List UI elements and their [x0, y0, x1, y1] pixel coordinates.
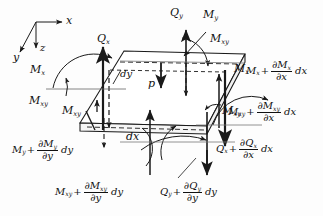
- expr-Mxy-dy-num-sub: xy: [100, 185, 107, 192]
- expr-Qx-dx-differential: dx: [261, 143, 273, 154]
- expr-Mx-plus-denominator: ∂x: [271, 71, 292, 82]
- label-Mxy-top-subscript: xy: [221, 38, 229, 46]
- expr-Mxy-dy-num-text: ∂M: [85, 180, 100, 191]
- label-dy: dy: [120, 69, 132, 79]
- label-Mxy-bottomleft-symbol: M: [62, 104, 73, 117]
- expr-Qx-plus-dx: Qx+∂Qx∂xdx: [216, 138, 273, 160]
- expr-Qy-dy-base: Q: [160, 186, 168, 197]
- expr-Mx-plus: Mx+∂Mx∂xdx: [246, 60, 307, 82]
- expr-Qy-dy-num-text: ∂Q: [184, 180, 197, 191]
- label-My-subscript: y: [214, 14, 218, 22]
- expr-My-dy-numerator: ∂My: [37, 139, 58, 150]
- expr-Mx-plus-num-sub: x: [288, 64, 292, 71]
- expr-Qy-plus-dy: Qy+∂Qy∂ydy: [160, 181, 217, 203]
- expr-Qx-dx-fraction: ∂Qx∂x: [239, 138, 258, 160]
- expr-My-plus-dy: My+∂My∂ydy: [12, 139, 73, 161]
- expr-Qx-dx-base: Q: [216, 143, 224, 154]
- expr-My-dy-operator: +: [26, 144, 36, 155]
- expr-Mxy-dx-numerator: ∂Mxy: [257, 101, 281, 112]
- plate-element-diagram: x y z dy dx p Qx Qy My Mxy Mx Mxy Mxy Mx…: [0, 0, 323, 216]
- expr-My-dy-num-sub: y: [54, 143, 58, 150]
- label-Qy: Qy: [170, 7, 183, 20]
- expr-Qy-dy-operator: +: [172, 186, 182, 197]
- y-axis-arrow: [20, 22, 36, 52]
- expr-Mxy-plus-dx: Mxy+∂Mxy∂xdx: [228, 101, 296, 123]
- expr-Mx-plus-differential: dx: [295, 65, 307, 76]
- expr-Qy-dy-denominator: ∂y: [183, 192, 202, 203]
- expr-Mxy-dy-fraction: ∂Mxy∂y: [84, 181, 108, 203]
- expr-Mxy-plus-dy: Mxy+∂Mxy∂ydy: [55, 181, 123, 203]
- expr-Mx-plus-operator: +: [260, 65, 270, 76]
- expr-Mxy-dx-operator: +: [245, 106, 255, 117]
- expr-Mxy-dy-differential: dy: [111, 186, 123, 197]
- expr-Qy-dy-numerator: ∂Qy: [183, 181, 202, 192]
- expr-Mx-plus-numerator: ∂Mx: [271, 60, 292, 71]
- label-Qx-subscript: x: [106, 38, 110, 46]
- expr-My-dy-denominator: ∂y: [37, 150, 58, 161]
- expr-Mxy-dy-base: M: [55, 186, 65, 197]
- label-Mxy-left: Mxy: [29, 95, 48, 108]
- label-pressure-p: p: [148, 78, 155, 89]
- expr-My-dy-num-text: ∂M: [38, 138, 53, 149]
- expr-Qx-dx-num-text: ∂Q: [240, 137, 253, 148]
- label-My-symbol: M: [203, 8, 214, 21]
- expr-Mx-plus-base: M: [246, 65, 256, 76]
- label-Qx: Qx: [97, 33, 110, 46]
- label-Qy-symbol: Q: [170, 6, 179, 19]
- expr-Mxy-dy-operator: +: [72, 186, 82, 197]
- label-My: My: [203, 9, 218, 22]
- axis-label-y: y: [13, 52, 19, 63]
- expr-Qx-dx-operator: +: [228, 143, 238, 154]
- expr-My-dy-base: M: [12, 144, 22, 155]
- label-Mx-left-symbol: M: [30, 63, 41, 76]
- expr-My-dy-fraction: ∂My∂y: [37, 139, 58, 161]
- expr-Qx-dx-numerator: ∂Qx: [239, 138, 258, 149]
- expr-Mxy-dx-denominator: ∂x: [257, 112, 281, 123]
- Mxy-left-arc: [66, 78, 67, 96]
- expr-Mxy-dx-base: M: [228, 106, 238, 117]
- Mxy-plus-dy-leader: [178, 158, 196, 178]
- expr-Qy-dy-fraction: ∂Qy∂y: [183, 181, 202, 203]
- expr-Mx-plus-fraction: ∂Mx∂x: [271, 60, 292, 82]
- bottom-left-arc: [142, 128, 152, 166]
- label-dx: dx: [126, 131, 139, 142]
- expr-Mxy-dx-fraction: ∂Mxy∂x: [257, 101, 281, 123]
- expr-Mxy-dx-num-sub: xy: [273, 105, 280, 112]
- label-Qy-subscript: y: [179, 12, 183, 20]
- label-Qx-symbol: Q: [97, 32, 106, 45]
- expr-Mxy-dy-numerator: ∂Mxy: [84, 181, 108, 192]
- expr-Mx-plus-num-text: ∂M: [272, 59, 287, 70]
- expr-Mxy-dy-denominator: ∂y: [84, 192, 108, 203]
- label-Mx-left-subscript: x: [41, 69, 45, 77]
- expr-Qy-dy-num-sub: y: [197, 185, 201, 192]
- label-Mxy-bottomleft: Mxy: [62, 105, 81, 118]
- expr-Qx-dx-num-sub: x: [253, 142, 257, 149]
- label-Mx-right-symbol: M: [234, 62, 245, 75]
- expr-Qy-dy-differential: dy: [205, 186, 217, 197]
- expr-Qx-dx-denominator: ∂x: [239, 149, 258, 160]
- axis-label-x: x: [66, 15, 72, 26]
- label-Mxy-left-symbol: M: [29, 94, 40, 107]
- label-Mx-left: Mx: [30, 64, 45, 77]
- label-Mxy-bottomleft-subscript: xy: [73, 110, 81, 118]
- label-Mxy-left-subscript: xy: [40, 100, 48, 108]
- expr-My-dy-differential: dy: [61, 144, 73, 155]
- expr-Mxy-dx-num-text: ∂M: [258, 100, 273, 111]
- label-Mxy-top-symbol: M: [210, 32, 221, 45]
- expr-Mxy-dx-differential: dx: [284, 106, 296, 117]
- label-Mxy-top: Mxy: [210, 33, 229, 46]
- axis-label-z: z: [40, 43, 45, 53]
